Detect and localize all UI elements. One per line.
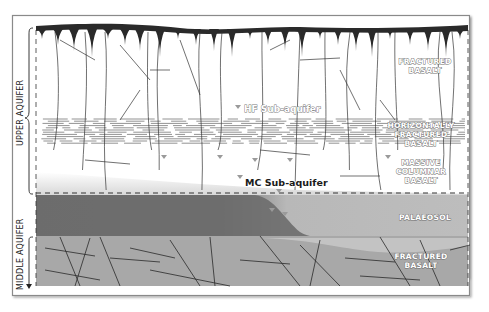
label-line: HORIZONTALLY bbox=[387, 121, 454, 130]
label-line: MASSIVE bbox=[401, 158, 441, 167]
label-line: BASALT bbox=[408, 66, 442, 75]
label-line: COLUMNAR bbox=[396, 167, 446, 176]
label-line: PALAEOSOL bbox=[399, 213, 451, 222]
aquifer-cross-section-diagram: UPPER AQUIFER MIDDLE AQUIFER FRACTURED B… bbox=[0, 0, 489, 312]
hf-sub-aquifer-label: HF Sub-aquifer bbox=[244, 104, 321, 114]
label-line: BASALT bbox=[404, 139, 438, 148]
middle-aquifer-label: MIDDLE AQUIFER bbox=[16, 218, 25, 290]
upper-aquifer-label: UPPER AQUIFER bbox=[16, 79, 25, 146]
mc-sub-aquifer-label: MC Sub-aquifer bbox=[245, 177, 328, 188]
label-line: FRACTURED bbox=[398, 57, 451, 66]
label-line: FRACTURED bbox=[394, 252, 447, 261]
label-line: BASALT bbox=[404, 176, 438, 185]
label-line: BASALT bbox=[404, 261, 438, 270]
label-line: FRACTURED bbox=[394, 130, 447, 139]
label-palaeosol: PALAEOSOL bbox=[399, 213, 451, 222]
